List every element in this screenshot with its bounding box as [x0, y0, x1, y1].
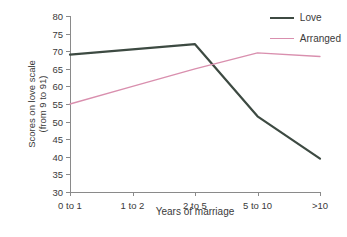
y-axis-title: Scores on love scale (from 9 to 91) — [22, 16, 52, 192]
x-tick-1 — [133, 192, 134, 196]
y-axis-title-line1: Scores on love scale — [26, 60, 37, 148]
y-tick-label-40: 40 — [52, 151, 63, 162]
legend-label-love: Love — [300, 12, 322, 23]
x-axis-title: Years of marriage — [70, 206, 320, 217]
line-chart: 3035404550556065707580 0 to 11 to 22 to … — [0, 0, 347, 237]
chart-legend: LoveArranged — [270, 12, 341, 44]
y-tick-label-30: 30 — [52, 187, 63, 198]
y-tick-label-55: 55 — [52, 99, 63, 110]
series-line-love — [70, 44, 320, 158]
legend-swatch-love-icon — [270, 17, 294, 19]
series-line-arranged — [70, 53, 320, 104]
x-tick-3 — [258, 192, 259, 196]
y-tick-label-50: 50 — [52, 116, 63, 127]
legend-swatch-arranged-icon — [270, 38, 294, 39]
x-tick-2 — [195, 192, 196, 196]
legend-label-arranged: Arranged — [300, 33, 341, 44]
legend-item-love[interactable]: Love — [270, 12, 341, 23]
y-tick-label-70: 70 — [52, 46, 63, 57]
y-tick-label-65: 65 — [52, 63, 63, 74]
y-axis-title-text: Scores on love scale (from 9 to 91) — [26, 60, 48, 148]
y-tick-label-60: 60 — [52, 81, 63, 92]
y-tick-label-80: 80 — [52, 11, 63, 22]
y-tick-label-35: 35 — [52, 169, 63, 180]
y-axis-title-line2: (from 9 to 91) — [37, 76, 48, 133]
y-tick-label-45: 45 — [52, 134, 63, 145]
x-tick-4 — [320, 192, 321, 196]
y-tick-label-75: 75 — [52, 28, 63, 39]
x-tick-0 — [70, 192, 71, 196]
legend-item-arranged[interactable]: Arranged — [270, 33, 341, 44]
